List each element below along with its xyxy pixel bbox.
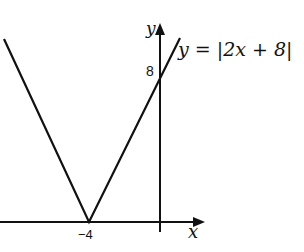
y-tick-8: 8: [146, 64, 154, 78]
x-axis-label: x: [188, 223, 198, 241]
graph-canvas: y x 8 −4 y = |2x + 8|: [0, 0, 304, 252]
x-tick-minus-4: −4: [78, 228, 93, 241]
y-axis-label: y: [146, 20, 156, 37]
equation-label: y = |2x + 8|: [178, 40, 292, 59]
y-axis-arrow-icon: [155, 23, 165, 35]
